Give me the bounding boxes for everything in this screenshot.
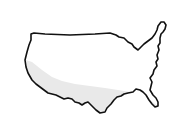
us-outline-icon	[0, 0, 175, 121]
us-map-canvas	[0, 0, 175, 121]
